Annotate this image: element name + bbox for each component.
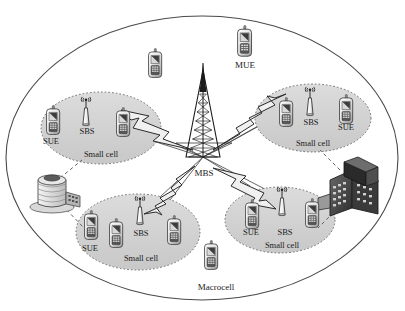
small-cell-label: Small cell: [124, 253, 159, 263]
sue-label: SUE: [82, 243, 98, 253]
sue-label: SUE: [243, 227, 259, 237]
mue-phone-icon: [149, 48, 162, 77]
sue-phone-icon: [280, 97, 293, 126]
sue-phone-icon: [306, 198, 319, 227]
sue-phone-icon: [246, 199, 259, 228]
sbs-label: SBS: [303, 117, 318, 127]
small-cell-label: Small cell: [296, 138, 331, 148]
sbs-label: SBS: [79, 126, 94, 136]
building-right-block: [318, 157, 378, 216]
sue-phone-icon: [117, 107, 130, 136]
mue-phone-icon: [238, 26, 252, 57]
mue-phone-icon: [205, 240, 218, 269]
sue-phone-icon: [47, 105, 60, 134]
mbs-lattice-tower-icon: [176, 63, 232, 157]
sbs-label: SBS: [277, 227, 292, 237]
sue-phone-icon: [168, 215, 181, 244]
macrocell-label: Macrocell: [198, 282, 235, 292]
small-cell-label: Small cell: [84, 149, 119, 159]
network-diagram: SUE SBS Small cell SBS SUE Small cell SU…: [0, 0, 405, 311]
sbs-label: SBS: [133, 228, 148, 238]
sue-phone-icon: [110, 218, 123, 247]
mbs-label: MBS: [194, 168, 213, 178]
sue-phone-icon: [340, 94, 353, 123]
sue-label: SUE: [338, 122, 354, 132]
sue-phone-icon: [85, 210, 98, 239]
small-cell-label: Small cell: [265, 240, 300, 250]
sue-label: SUE: [43, 136, 59, 146]
mue-label: MUE: [235, 60, 256, 70]
building-left-tower: [30, 175, 80, 213]
